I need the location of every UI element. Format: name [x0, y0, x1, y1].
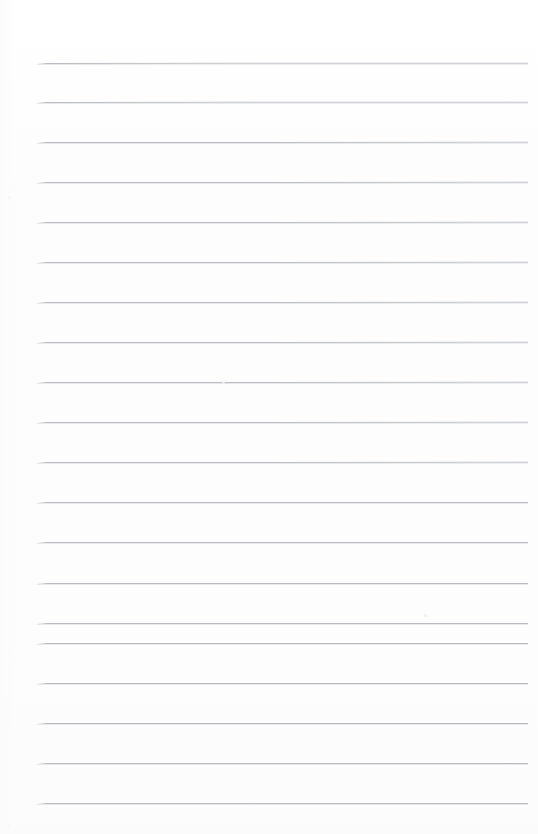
rule-line: [37, 142, 528, 143]
rule-line: [37, 583, 528, 584]
rule-line: [37, 462, 528, 463]
rule-line: [37, 182, 528, 183]
rule-line: [37, 542, 528, 543]
rule-line: [37, 623, 528, 624]
ruled-lines-layer: [0, 0, 538, 834]
scanned-page: [0, 0, 538, 834]
rule-line: [37, 723, 528, 724]
rule-line: [37, 63, 528, 64]
rule-line: [37, 502, 528, 503]
rule-line: [37, 262, 528, 263]
rule-line: [37, 683, 528, 684]
rule-line: [37, 382, 528, 383]
rule-line: [37, 342, 528, 343]
rule-line: [37, 803, 528, 804]
rule-line: [37, 222, 528, 223]
rule-line: [37, 643, 528, 644]
rule-line: [37, 763, 528, 764]
rule-line: [37, 422, 528, 423]
rule-line: [37, 302, 528, 303]
rule-line: [37, 102, 528, 103]
